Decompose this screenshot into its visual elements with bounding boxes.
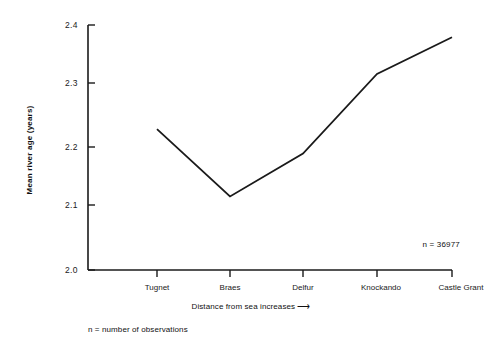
y-tick-label-4: 2.4 bbox=[48, 20, 78, 30]
x-tick-marks bbox=[157, 270, 452, 277]
x-tick-label-knockando: Knockando bbox=[361, 283, 401, 292]
y-tick-label-1: 2.1 bbox=[48, 200, 78, 210]
y-tick-label-0: 2.0 bbox=[48, 265, 78, 275]
x-axis-label-text: Distance from sea increases bbox=[192, 302, 296, 311]
right-arrow-icon: ⟶ bbox=[297, 301, 310, 311]
y-tick-marks bbox=[88, 25, 95, 270]
y-axis-label-text: Mean river age (years) bbox=[25, 106, 34, 195]
y-axis-label: Mean river age (years) bbox=[22, 60, 36, 240]
x-tick-label-tugnet: Tugnet bbox=[145, 283, 170, 292]
footnote-n-definition: n = number of observations bbox=[88, 325, 188, 334]
data-series-line bbox=[157, 37, 452, 196]
x-tick-label-braes: Braes bbox=[220, 283, 241, 292]
chart-figure: 2.4 2.3 2.2 2.1 2.0 Tugnet Braes Delfur … bbox=[0, 0, 502, 345]
x-tick-label-castle-grant: Castle Grant bbox=[439, 283, 484, 292]
y-tick-label-2: 2.2 bbox=[48, 142, 78, 152]
x-axis-label: Distance from sea increases ⟶ bbox=[0, 301, 502, 311]
x-tick-label-delfur: Delfur bbox=[292, 283, 313, 292]
y-tick-label-3: 2.3 bbox=[48, 78, 78, 88]
sample-size-annotation: n = 36977 bbox=[330, 240, 460, 249]
plot-area bbox=[0, 0, 502, 345]
